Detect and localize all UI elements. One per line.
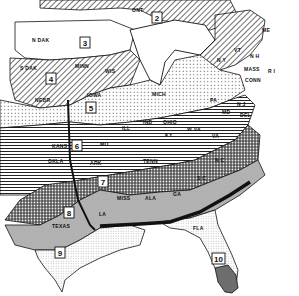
state-label: S C: [197, 175, 206, 181]
svg-text:7: 7: [101, 178, 106, 187]
state-label: GA: [173, 191, 181, 197]
state-label: IOWA: [87, 92, 102, 98]
svg-text:5: 5: [89, 104, 94, 113]
state-label: MD: [222, 109, 230, 115]
state-label: S DAK: [20, 65, 37, 71]
state-label: R I: [268, 68, 276, 74]
svg-text:8: 8: [67, 209, 72, 218]
svg-text:4: 4: [49, 75, 54, 84]
state-label: CONN: [245, 77, 261, 83]
state-label: W VA: [187, 126, 201, 132]
zone-3-marker: 3: [80, 37, 90, 48]
state-label: N H: [250, 53, 260, 59]
state-label: N DAK: [32, 37, 49, 43]
state-label: KANS: [52, 143, 68, 149]
zone-10-marker: 10: [212, 253, 225, 264]
svg-text:2: 2: [155, 14, 160, 23]
state-label: PA: [210, 97, 217, 103]
state-label: ARK: [90, 160, 102, 166]
state-label: MISS: [117, 195, 131, 201]
state-label: N C: [215, 157, 225, 163]
state-label: FLA: [193, 225, 204, 231]
state-label: TEXAS: [52, 223, 71, 229]
state-label: WIS: [105, 68, 116, 74]
zone-7-marker: 7: [98, 176, 108, 187]
state-label: TENN: [143, 158, 158, 164]
state-label: ME: [262, 27, 270, 33]
zone-5-marker: 5: [86, 102, 96, 113]
zone-2-marker: 2: [152, 12, 162, 23]
state-label: N J: [237, 101, 246, 107]
state-label: LA: [99, 211, 106, 217]
state-label: VT: [234, 47, 241, 53]
state-label: KY: [165, 132, 173, 138]
state-label: OKLA: [48, 158, 63, 164]
svg-text:6: 6: [75, 142, 80, 151]
state-label: ILL: [122, 125, 130, 131]
state-label: MASS: [244, 66, 260, 72]
state-label: IND: [143, 119, 153, 125]
state-label: NEBR: [35, 97, 50, 103]
state-label: MO: [100, 141, 109, 147]
state-label: ALA: [145, 195, 156, 201]
zone-9-marker: 9: [55, 247, 65, 258]
state-label: MICH: [152, 91, 166, 97]
zone-4-marker: 4: [46, 73, 56, 84]
svg-text:3: 3: [83, 39, 88, 48]
zone-6-marker: 6: [72, 140, 82, 151]
svg-text:9: 9: [58, 249, 63, 258]
zone-8-marker: 8: [64, 207, 74, 218]
hardiness-zone-map: 2 3 4 5 6 7 8 9 10 N DAK S DAK NEBR KANS…: [0, 0, 299, 296]
region-label: ONT: [132, 7, 143, 13]
svg-text:10: 10: [214, 255, 223, 264]
state-label: DEL: [240, 112, 251, 118]
state-label: OHIO: [163, 119, 177, 125]
state-label: N Y: [217, 57, 227, 63]
state-label: VA: [212, 133, 219, 139]
state-label: MINN: [75, 63, 89, 69]
